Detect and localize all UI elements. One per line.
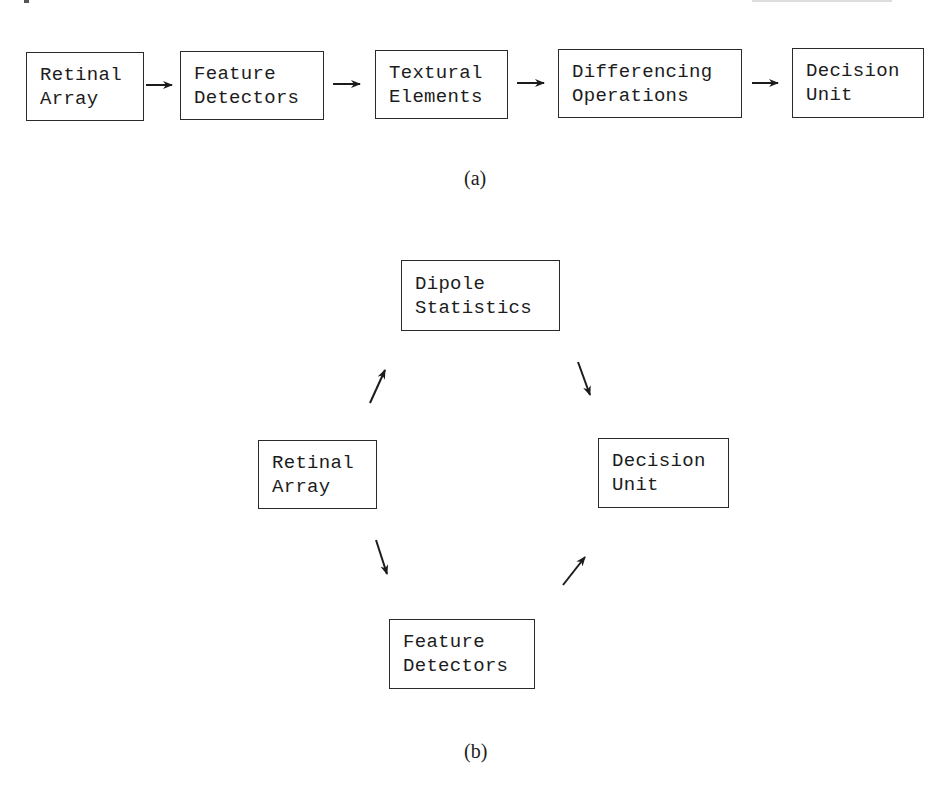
figure: Retinal Array Feature Detectors Textural… bbox=[0, 0, 943, 786]
arrow-up-right-icon bbox=[370, 370, 385, 403]
arrows-layer bbox=[0, 0, 943, 786]
arrow-down-right-icon bbox=[578, 362, 590, 395]
arrow-down-right-icon bbox=[376, 540, 387, 574]
arrow-up-right-icon bbox=[563, 557, 585, 585]
